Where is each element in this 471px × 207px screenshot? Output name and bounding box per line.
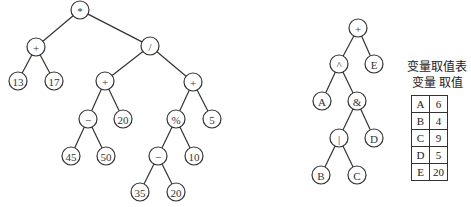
tree-node: ^	[330, 55, 348, 73]
tree-edge	[180, 90, 189, 111]
node-label: +	[102, 76, 108, 88]
tree-nodes: *+/1317++−20%54550−103520+^EA&|DBC	[9, 1, 383, 201]
node-label: B	[317, 170, 324, 182]
tree-node: %	[167, 110, 185, 128]
node-label: −	[155, 151, 161, 163]
tree-edge	[362, 36, 371, 56]
node-label: +	[33, 42, 39, 54]
var-cell: B	[412, 113, 430, 130]
tree-node: +	[96, 72, 114, 90]
tree-edge	[197, 90, 208, 111]
tree-edge	[326, 72, 335, 93]
tree-edge	[162, 127, 172, 148]
tree-edge	[157, 52, 186, 76]
tree-node: +	[27, 38, 45, 56]
tree-node: 13	[9, 72, 27, 90]
tree-node: −	[79, 110, 97, 128]
tree-edge	[180, 127, 190, 148]
tree-node: +	[349, 19, 367, 37]
tree-node: +	[184, 73, 202, 91]
tree-node: *	[71, 1, 89, 19]
node-label: 45	[66, 151, 78, 163]
variable-value-table: A6 B4 C9 D5 E20	[411, 95, 448, 181]
node-label: A	[318, 96, 326, 108]
value-cell: 20	[430, 164, 448, 181]
var-cell: D	[412, 147, 430, 164]
node-label: 13	[13, 76, 25, 88]
node-label: +	[190, 77, 196, 89]
tree-edge	[343, 36, 354, 56]
tree-node: 45	[62, 147, 80, 165]
table-row: C9	[412, 130, 448, 147]
node-label: 10	[189, 151, 201, 163]
tree-edge	[343, 109, 353, 130]
tree-edge	[92, 89, 102, 111]
tree-edge	[343, 146, 353, 167]
tree-edge	[361, 109, 370, 130]
tree-node: 20	[167, 183, 185, 201]
var-cell: A	[412, 96, 430, 113]
tree-node: E	[365, 55, 383, 73]
node-label: 17	[49, 76, 61, 88]
tree-node: /	[141, 37, 159, 55]
node-label: C	[353, 170, 360, 182]
tree-edge	[112, 52, 143, 76]
var-cell: C	[412, 130, 430, 147]
tree-edge	[43, 16, 73, 41]
node-label: %	[171, 114, 180, 126]
tree-node: 5	[203, 110, 221, 128]
tree-node: C	[348, 166, 366, 184]
tree-edge	[92, 127, 102, 148]
tree-node: 20	[114, 110, 132, 128]
node-label: 20	[171, 187, 183, 199]
table-row: A6	[412, 96, 448, 113]
node-label: &	[353, 96, 362, 108]
tree-edge	[343, 72, 353, 93]
tree-node: 35	[131, 183, 149, 201]
tree-node: &	[348, 92, 366, 110]
table-row: D5	[412, 147, 448, 164]
node-label: 50	[101, 151, 113, 163]
tree-edge	[22, 55, 32, 73]
node-label: −	[85, 114, 91, 126]
tree-node: −	[149, 147, 167, 165]
node-label: 5	[209, 114, 215, 126]
node-label: D	[370, 133, 378, 145]
tree-edge	[75, 127, 84, 148]
table-row: E20	[412, 164, 448, 181]
node-label: 20	[118, 114, 130, 126]
node-label: |	[338, 133, 340, 145]
tree-node: 50	[97, 147, 115, 165]
tree-edge	[40, 55, 50, 73]
tree-edge	[325, 146, 335, 167]
tree-edge	[109, 89, 119, 111]
tree-edge	[162, 164, 172, 184]
value-cell: 4	[430, 113, 448, 130]
value-cell: 9	[430, 130, 448, 147]
tree-node: |	[330, 129, 348, 147]
tree-node: 10	[185, 147, 203, 165]
node-label: E	[371, 59, 378, 71]
tree-node: D	[365, 129, 383, 147]
var-cell: E	[412, 164, 430, 181]
node-label: ^	[336, 59, 342, 71]
node-label: 35	[135, 187, 147, 199]
tree-node: B	[312, 166, 330, 184]
tree-node: A	[313, 92, 331, 110]
variable-table-header: 变量 取值	[404, 73, 470, 91]
node-label: *	[77, 5, 83, 17]
tree-edge	[88, 14, 142, 42]
node-label: +	[355, 23, 361, 35]
tree-node: 17	[45, 72, 63, 90]
tree-edge	[144, 164, 154, 184]
value-cell: 5	[430, 147, 448, 164]
value-cell: 6	[430, 96, 448, 113]
table-row: B4	[412, 113, 448, 130]
